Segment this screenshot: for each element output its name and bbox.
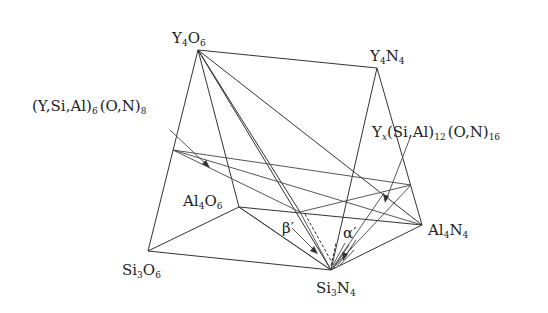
label-si3o6: Si3O6 <box>122 261 161 280</box>
label-y4n4: Y4N4 <box>369 47 405 66</box>
label-al4o6: Al4O6 <box>182 192 223 211</box>
label-y4o6: Y4O6 <box>171 29 206 48</box>
prism-edges <box>148 50 422 270</box>
janecke-prism-diagram: Y4O6 Y4N4 Si3O6 Al4O6 Si3N4 Al4N4 (Y,Si,… <box>0 0 548 313</box>
label-beta-plane-formula: (Y,Si,Al)6(O,N)8 <box>32 97 147 116</box>
label-beta-prime: β′ <box>282 219 295 237</box>
label-si3n4: Si3N4 <box>316 279 356 298</box>
label-alpha-plane-formula: Yx(Si,Al)12(O,N)16 <box>371 123 500 142</box>
label-al4n4: Al4N4 <box>427 221 469 240</box>
composition-planes <box>173 150 422 270</box>
beta-plane-arrow <box>170 130 208 166</box>
label-alpha-prime: α′ <box>343 224 357 242</box>
